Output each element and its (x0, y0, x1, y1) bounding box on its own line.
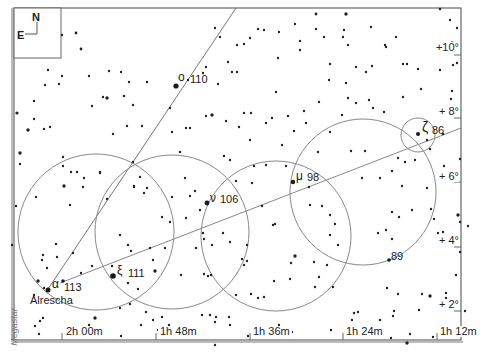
dec-label-plus2: + 2° (439, 299, 459, 310)
star-chart (0, 0, 487, 352)
fov-circle-1 (18, 154, 174, 310)
named-stars (46, 83, 421, 292)
label-nu-number: 106 (220, 194, 238, 205)
label-xi-greek: ξ (117, 265, 122, 276)
compass-north-label: N (32, 11, 40, 23)
dec-label-plus6: + 6° (439, 171, 459, 182)
dec-label-plus10: +10° (436, 42, 459, 53)
label-zeta-number: 86 (432, 125, 444, 136)
label-alrescha: Alrescha (30, 295, 73, 306)
label-omicron-number: 110 (190, 74, 208, 85)
ra-label-1h36m: 1h 36m (251, 326, 292, 337)
label-89: 89 (391, 251, 403, 262)
star-mu (291, 180, 295, 184)
fov-circle-3 (201, 161, 351, 311)
label-mu-number: 98 (307, 172, 319, 183)
compass-east-label: E (17, 29, 24, 41)
fov-circle-2 (95, 155, 249, 309)
software-credit: Megastar (9, 297, 19, 352)
star-zeta (416, 132, 420, 136)
fov-circle-4 (290, 119, 436, 265)
label-alpha-greek: α (52, 279, 59, 290)
star-xi (110, 273, 116, 279)
label-zeta-greek: ζ (422, 122, 428, 133)
label-omicron-greek: ο (178, 72, 185, 83)
label-mu-greek: μ (296, 171, 303, 182)
dec-label-plus8: + 8° (439, 106, 459, 117)
label-nu-greek: ν (210, 193, 216, 204)
ra-label-1h24m: 1h 24m (344, 326, 385, 337)
ra-label-1h12m: 1h 12m (438, 326, 479, 337)
ra-label-1h48m: 1h 48m (158, 326, 199, 337)
ra-label-2h00m: 2h 00m (64, 326, 105, 337)
star-nu (205, 201, 210, 206)
dec-label-plus4: + 4° (439, 235, 459, 246)
label-alpha-number: 113 (64, 282, 82, 293)
star-alpha (46, 288, 51, 293)
field-stars (11, 8, 471, 346)
label-xi-number: 111 (128, 268, 145, 279)
dec-ticks (454, 55, 461, 311)
line-to-omicron (46, 8, 236, 292)
star-omicron (173, 83, 178, 88)
